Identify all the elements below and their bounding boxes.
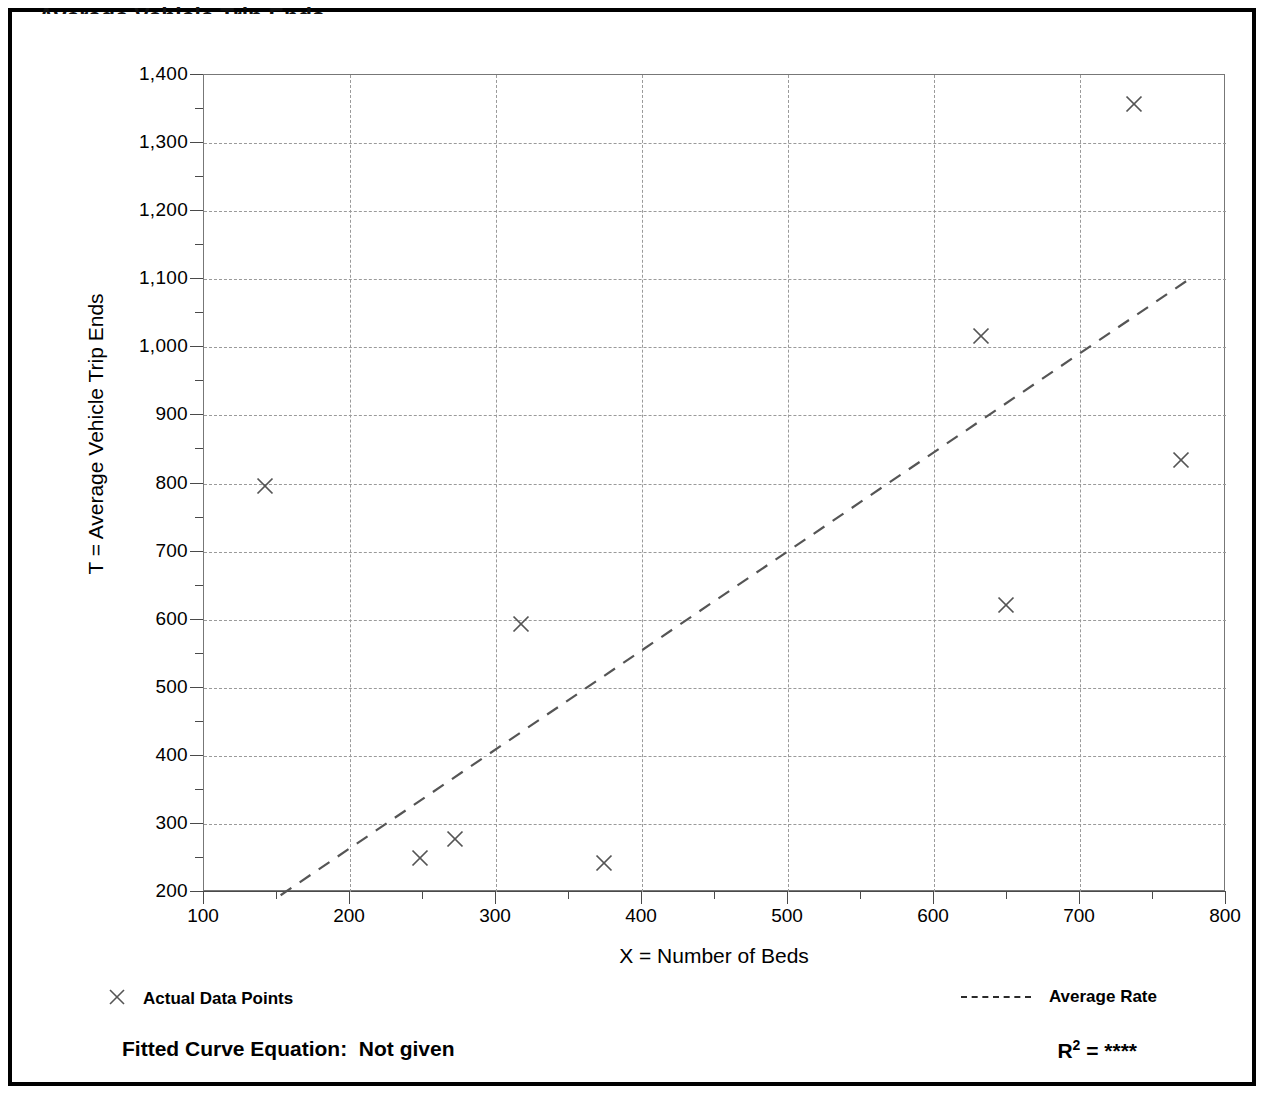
y-axis-tick-label: 300 [155, 812, 188, 834]
x-axis-tick-label: 800 [1209, 905, 1241, 927]
y-axis-tick-label: 700 [155, 540, 188, 562]
scatter-point-x-marker [593, 852, 615, 874]
y-axis-tick-label: 1,400 [139, 63, 188, 85]
y-tick-major [190, 823, 203, 824]
y-tick-minor [195, 448, 203, 449]
x-tick-minor [276, 891, 277, 899]
scatter-point-x-marker [510, 613, 532, 635]
gridline-horizontal [204, 211, 1226, 212]
y-tick-major [190, 346, 203, 347]
x-tick-major [203, 891, 204, 904]
y-tick-major [190, 74, 203, 75]
y-axis-tick-label: 200 [155, 880, 188, 902]
legend-item-data-points: Actual Data Points [107, 987, 293, 1011]
x-axis-tick-label: 200 [333, 905, 365, 927]
scatter-point-x-marker [1170, 449, 1192, 471]
legend-label-data-points: Actual Data Points [143, 989, 293, 1009]
r2-equals: = [1080, 1039, 1104, 1062]
gridline-horizontal [204, 688, 1226, 689]
y-tick-minor [195, 585, 203, 586]
gridline-horizontal [204, 620, 1226, 621]
scatter-point-x-marker [444, 828, 466, 850]
y-tick-minor [195, 176, 203, 177]
y-tick-minor [195, 517, 203, 518]
y-axis-tick-label: 800 [155, 472, 188, 494]
y-tick-major [190, 755, 203, 756]
x-axis-tick-label: 100 [187, 905, 219, 927]
chart-footer: Fitted Curve Equation: Not given R2 = **… [12, 1037, 1252, 1077]
x-axis-tick-label: 500 [771, 905, 803, 927]
x-axis-tick-label: 600 [917, 905, 949, 927]
r-squared-value: R2 = **** [1057, 1037, 1137, 1063]
x-tick-major [495, 891, 496, 904]
x-tick-minor [1152, 891, 1153, 899]
x-axis-tick-labels: 100200300400500600700800 [203, 905, 1225, 935]
gridline-horizontal [204, 415, 1226, 416]
dashed-line-icon [961, 996, 1031, 998]
y-tick-major [190, 619, 203, 620]
y-tick-minor [195, 653, 203, 654]
y-tick-minor [195, 244, 203, 245]
y-axis-tick-label: 1,100 [139, 267, 188, 289]
gridline-horizontal [204, 824, 1226, 825]
y-tick-major [190, 687, 203, 688]
y-tick-major [190, 210, 203, 211]
x-tick-major [1225, 891, 1226, 904]
y-axis-tick-label: 900 [155, 403, 188, 425]
y-tick-minor [195, 312, 203, 313]
y-axis-tick-label: 500 [155, 676, 188, 698]
y-tick-major [190, 551, 203, 552]
legend-label-average-rate: Average Rate [1049, 987, 1157, 1007]
y-tick-major [190, 142, 203, 143]
legend-item-average-rate: Average Rate [961, 987, 1157, 1007]
x-tick-major [1079, 891, 1080, 904]
x-tick-major [641, 891, 642, 904]
chart-frame: Average Vehicle Trip Ends T = Average Ve… [8, 8, 1256, 1086]
y-axis-tick-label: 400 [155, 744, 188, 766]
y-tick-minor [195, 789, 203, 790]
x-axis-tick-label: 300 [479, 905, 511, 927]
y-tick-major [190, 483, 203, 484]
gridline-horizontal [204, 552, 1226, 553]
y-axis-tick-label: 1,300 [139, 131, 188, 153]
y-axis-tick-label: 1,200 [139, 199, 188, 221]
r2-stars: **** [1104, 1039, 1137, 1062]
scatter-point-x-marker [995, 594, 1017, 616]
chart-legend: Actual Data Points Average Rate [12, 987, 1252, 1027]
x-tick-major [787, 891, 788, 904]
r2-label: R [1057, 1039, 1072, 1062]
x-tick-minor [714, 891, 715, 899]
gridline-horizontal [204, 143, 1226, 144]
y-tick-minor [195, 380, 203, 381]
scatter-point-x-marker [970, 325, 992, 347]
x-tick-major [349, 891, 350, 904]
gridline-horizontal [204, 756, 1226, 757]
x-axis-title: X = Number of Beds [203, 944, 1225, 968]
fitted-curve-equation: Fitted Curve Equation: Not given [122, 1037, 455, 1061]
y-tick-minor [195, 857, 203, 858]
y-tick-major [190, 891, 203, 892]
y-axis-tick-label: 1,000 [139, 335, 188, 357]
y-tick-minor [195, 721, 203, 722]
x-tick-minor [422, 891, 423, 899]
x-tick-minor [1006, 891, 1007, 899]
y-axis-tick-label: 600 [155, 608, 188, 630]
x-tick-major [933, 891, 934, 904]
plot-box [203, 74, 1225, 891]
x-axis-tick-label: 400 [625, 905, 657, 927]
y-tick-minor [195, 108, 203, 109]
x-axis-tick-label: 700 [1063, 905, 1095, 927]
y-tick-major [190, 278, 203, 279]
gridline-horizontal [204, 279, 1226, 280]
gridline-horizontal [204, 347, 1226, 348]
x-tick-minor [860, 891, 861, 899]
y-tick-major [190, 414, 203, 415]
scatter-point-x-marker [1123, 93, 1145, 115]
x-marker-icon [107, 987, 127, 1011]
y-axis-tick-labels: 2003004005006007008009001,0001,1001,2001… [12, 66, 188, 891]
scatter-point-x-marker [254, 475, 276, 497]
scatter-point-x-marker [409, 847, 431, 869]
x-tick-minor [568, 891, 569, 899]
gridline-horizontal [204, 484, 1226, 485]
plot-area [195, 66, 1225, 891]
